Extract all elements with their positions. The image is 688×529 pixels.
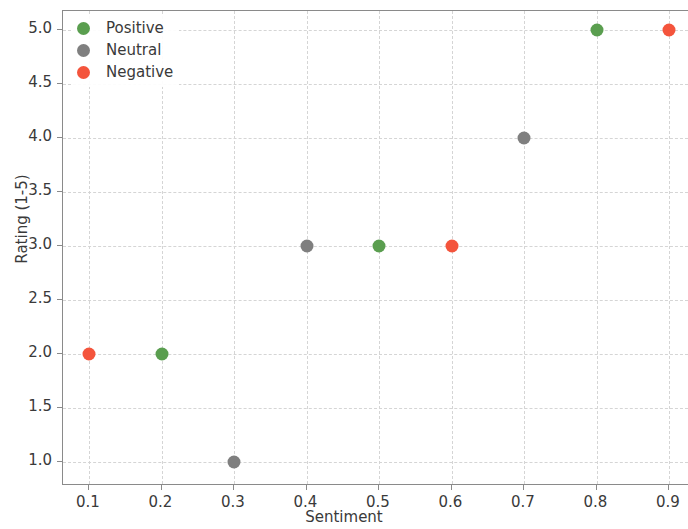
y-tick-label: 4.5 [8,73,52,91]
y-tick-label: 4.0 [8,127,52,145]
legend-item-negative[interactable]: Negative [77,61,173,83]
x-tick-mark [523,485,524,490]
y-tick-mark [57,353,62,354]
gridline-vertical [524,11,525,484]
y-tick-label: 1.5 [8,397,52,415]
data-point-neutral [300,240,313,253]
x-tick-mark [161,485,162,490]
legend-marker-icon [77,22,90,35]
y-tick-mark [57,461,62,462]
gridline-vertical [234,11,235,484]
gridline-horizontal [63,192,688,193]
y-tick-label: 5.0 [8,19,52,37]
y-tick-mark [57,191,62,192]
legend-item-neutral[interactable]: Neutral [77,39,173,61]
gridline-horizontal [63,300,688,301]
y-tick-mark [57,83,62,84]
legend-item-positive[interactable]: Positive [77,17,173,39]
gridline-horizontal [63,138,688,139]
chart-legend: PositiveNeutralNegative [71,15,179,87]
y-tick-mark [57,29,62,30]
legend-marker-icon [77,44,90,57]
legend-marker-icon [77,66,90,79]
x-tick-mark [596,485,597,490]
x-tick-mark [306,485,307,490]
y-tick-mark [57,137,62,138]
data-point-negative [445,240,458,253]
data-point-negative [663,24,676,37]
legend-label: Positive [106,19,164,37]
y-tick-mark [57,407,62,408]
data-point-positive [590,24,603,37]
y-tick-label: 2.0 [8,343,52,361]
data-point-positive [155,348,168,361]
gridline-vertical [597,11,598,484]
plot-area: PositiveNeutralNegative [62,10,688,485]
x-tick-mark [668,485,669,490]
x-tick-mark [233,485,234,490]
scatter-chart-figure: PositiveNeutralNegative 1.01.52.02.53.03… [0,0,688,529]
x-axis-title: Sentiment [0,508,688,526]
x-tick-mark [378,485,379,490]
y-tick-mark [57,299,62,300]
data-point-neutral [228,456,241,469]
data-point-neutral [518,132,531,145]
x-tick-mark [88,485,89,490]
data-point-positive [373,240,386,253]
legend-label: Neutral [106,41,161,59]
y-tick-mark [57,245,62,246]
gridline-vertical [669,11,670,484]
y-axis-title: Rating (1-5) [13,159,31,279]
y-tick-label: 2.5 [8,289,52,307]
gridline-horizontal [63,408,688,409]
x-tick-mark [451,485,452,490]
data-point-negative [83,348,96,361]
y-tick-label: 1.0 [8,451,52,469]
gridline-horizontal [63,462,688,463]
legend-label: Negative [106,63,173,81]
